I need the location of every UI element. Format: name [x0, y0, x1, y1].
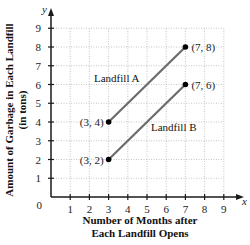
y-tick-label: 5 — [36, 97, 42, 109]
y-tick-label: 2 — [36, 154, 42, 166]
y-axis-title: Amount of Garbage in Each Landfill — [3, 23, 15, 196]
axes — [48, 8, 244, 200]
y-tick-label: 7 — [36, 60, 42, 72]
data-point-label: (3, 4) — [80, 116, 104, 129]
y-tick-label: 8 — [36, 41, 42, 53]
y-tick-label: 3 — [36, 135, 42, 147]
y-axis-title: (in tons) — [16, 90, 29, 129]
y-tick-label: 1 — [36, 172, 42, 184]
x-tick-label: 8 — [202, 203, 208, 215]
y-variable-label: y — [41, 3, 47, 15]
y-tick-label: 4 — [36, 116, 42, 128]
y-axis-arrow-icon — [48, 8, 54, 16]
data-point — [183, 44, 189, 50]
data-point-label: (7, 6) — [191, 79, 215, 92]
origin-label: 0 — [37, 199, 43, 211]
data-point — [183, 82, 189, 88]
y-tick-label: 9 — [36, 22, 42, 34]
x-tick-label: 9 — [221, 203, 227, 215]
gridlines — [51, 28, 224, 197]
series-label-landfill-a: Landfill A — [94, 72, 140, 84]
data-point — [106, 157, 112, 163]
data-point-label: (7, 8) — [191, 41, 215, 54]
data-point — [106, 119, 112, 125]
x-axis-title: Number of Months after — [83, 214, 198, 226]
y-tick-label: 6 — [36, 79, 42, 91]
data-point-label: (3, 2) — [80, 154, 104, 167]
series-label-landfill-b: Landfill B — [151, 121, 197, 133]
x-variable-label: x — [241, 195, 247, 207]
x-tick-label: 1 — [67, 203, 73, 215]
x-axis-title: Each Landfill Opens — [91, 227, 189, 239]
landfill-chart: 1234567891234567890 xy(3, 4)(7, 8)Landfi… — [0, 0, 250, 245]
